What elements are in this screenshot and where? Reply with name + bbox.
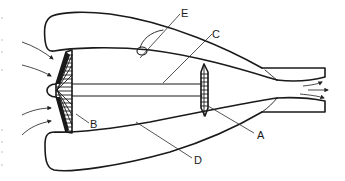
label-a: A — [257, 129, 265, 141]
exhaust-arrow-icon — [303, 82, 322, 86]
exhaust-arrows — [300, 82, 328, 98]
upper-nacelle — [45, 12, 277, 80]
label-e: E — [181, 7, 188, 19]
edge-dots — [1, 17, 3, 166]
shaft — [72, 84, 202, 96]
label-c: C — [212, 28, 220, 40]
nose-cone — [47, 84, 56, 97]
inlet-arrows — [22, 42, 53, 135]
inlet-arrow-icon — [22, 108, 51, 115]
leader-lines — [76, 14, 254, 158]
label-d: D — [194, 154, 202, 166]
fan — [56, 50, 72, 133]
lower-nacelle — [45, 98, 277, 171]
label-b: B — [90, 118, 97, 130]
jet-engine-diagram: E C B A D — [0, 0, 345, 181]
inlet-arrow-icon — [22, 121, 51, 135]
turbine — [201, 64, 208, 116]
inlet-arrow-icon — [22, 65, 51, 76]
